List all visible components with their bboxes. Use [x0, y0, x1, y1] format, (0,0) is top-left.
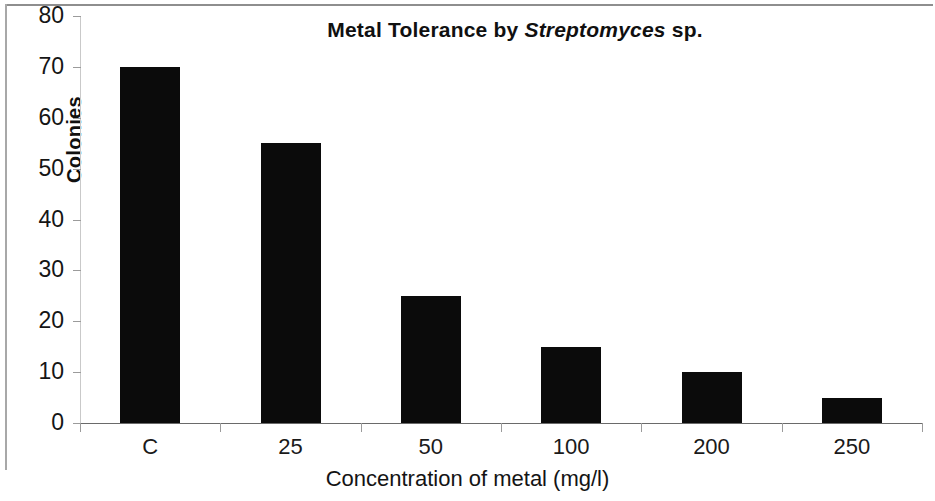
y-tick: 40 — [73, 220, 81, 221]
bar — [822, 398, 882, 423]
bar — [401, 296, 461, 423]
page-border-top — [5, 4, 933, 6]
y-tick-label: 0 — [51, 411, 64, 434]
x-tick — [220, 423, 221, 432]
x-tick — [80, 423, 81, 432]
y-tick: 10 — [73, 372, 81, 373]
bar — [120, 67, 180, 423]
bar — [261, 143, 321, 423]
x-tick-label: 25 — [220, 434, 360, 460]
y-tick-label: 60 — [38, 106, 64, 129]
bar — [541, 347, 601, 423]
x-tick — [922, 423, 923, 432]
x-tick — [641, 423, 642, 432]
x-tick — [782, 423, 783, 432]
y-tick-label: 70 — [38, 55, 64, 78]
x-tick — [501, 423, 502, 432]
plot-area: 01020304050607080 — [80, 16, 922, 423]
y-tick-label: 50 — [38, 157, 64, 180]
x-tick-label: 250 — [782, 434, 922, 460]
x-tick-label: C — [80, 434, 220, 460]
x-tick-label: 200 — [641, 434, 781, 460]
x-tick-label: 50 — [361, 434, 501, 460]
bar-chart-figure: Metal Tolerance by Streptomyces sp. Colo… — [0, 0, 935, 501]
y-tick: 20 — [73, 321, 81, 322]
y-tick-label: 10 — [38, 360, 64, 383]
y-tick-label: 20 — [38, 309, 64, 332]
y-tick-label: 40 — [38, 208, 64, 231]
bar — [682, 372, 742, 423]
y-tick: 80 — [73, 16, 81, 17]
y-tick: 60 — [73, 118, 81, 119]
x-tick — [361, 423, 362, 432]
y-tick: 30 — [73, 270, 81, 271]
page-border-left — [5, 4, 7, 470]
y-tick: 70 — [73, 67, 81, 68]
x-axis-title: Concentration of metal (mg/l) — [0, 466, 935, 492]
x-tick-label: 100 — [501, 434, 641, 460]
y-tick: 50 — [73, 169, 81, 170]
y-tick-label: 30 — [38, 258, 64, 281]
y-tick-label: 80 — [38, 4, 64, 27]
x-axis-line — [76, 423, 922, 424]
